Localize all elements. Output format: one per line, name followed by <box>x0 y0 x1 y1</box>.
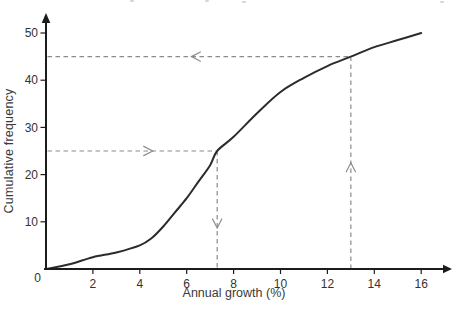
cumulative-frequency-ogive-chart: 24681012141610203040500 Cumulative frequ… <box>0 0 458 315</box>
chart-canvas: 24681012141610203040500 <box>0 0 458 315</box>
y-axis-arrow-icon <box>42 13 51 23</box>
cropped-text-artifact <box>440 1 444 3</box>
y-tick-label: 10 <box>25 215 39 229</box>
y-tick-label: 50 <box>25 26 39 40</box>
x-axis-title: Annual growth (%) <box>46 286 422 300</box>
y-axis-title: Cumulative frequency <box>2 89 16 214</box>
y-tick-label: 40 <box>25 73 39 87</box>
cropped-text-artifact <box>242 1 246 3</box>
origin-label: 0 <box>34 271 41 285</box>
cropped-text-artifact <box>130 0 134 2</box>
y-tick-label: 30 <box>25 121 39 135</box>
cropped-text-artifact <box>205 0 209 2</box>
ogive-curve <box>46 33 421 269</box>
y-tick-label: 20 <box>25 168 39 182</box>
x-axis-arrow-icon <box>443 265 452 274</box>
